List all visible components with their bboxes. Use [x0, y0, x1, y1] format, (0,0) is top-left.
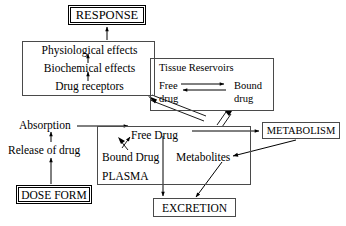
excretion-label: EXCRETION: [162, 202, 227, 214]
absorption-label: Absorption: [19, 119, 71, 131]
biochemical-effects-label: Biochemical effects: [23, 62, 156, 74]
pharmacokinetics-diagram: RESPONSE Physiological effects Biochemic…: [0, 0, 346, 226]
release-of-drug-label: Release of drug: [8, 144, 80, 156]
tissue-bound-drug-label-line1: Bound: [234, 80, 262, 91]
metabolism-label: METABOLISM: [267, 125, 336, 136]
tissue-reservoirs-title: Tissue Reservoirs: [159, 62, 234, 73]
tissue-reservoirs-box: Tissue Reservoirs Free drug Bound drug: [150, 58, 274, 111]
plasma-metabolites-label: Metabolites: [176, 151, 230, 163]
plasma-bound-drug-label: Bound Drug: [102, 151, 159, 163]
plasma-compartment-label: PLASMA: [102, 170, 149, 182]
response-label: RESPONSE: [76, 8, 139, 23]
edge-free-drug-to-tissue-reservoirs: [217, 110, 232, 127]
excretion-box: EXCRETION: [153, 198, 236, 217]
physiological-effects-label: Physiological effects: [23, 44, 156, 56]
tissue-free-drug-label-line1: Free: [159, 80, 178, 91]
dose-form-box: DOSE FORM: [16, 185, 92, 204]
response-box: RESPONSE: [68, 5, 146, 25]
metabolism-box: METABOLISM: [262, 122, 340, 139]
tissue-bound-drug-label-line2: drug: [234, 93, 253, 104]
tissue-free-drug-label-line2: drug: [159, 93, 178, 104]
drug-receptors-label: Drug receptors: [23, 80, 156, 92]
plasma-free-drug-label: Free Drug: [131, 129, 178, 141]
dose-form-label: DOSE FORM: [21, 189, 87, 201]
effects-box: Physiological effects Biochemical effect…: [22, 41, 155, 96]
plasma-box: Free Drug Bound Drug Metabolites PLASMA: [97, 126, 251, 185]
